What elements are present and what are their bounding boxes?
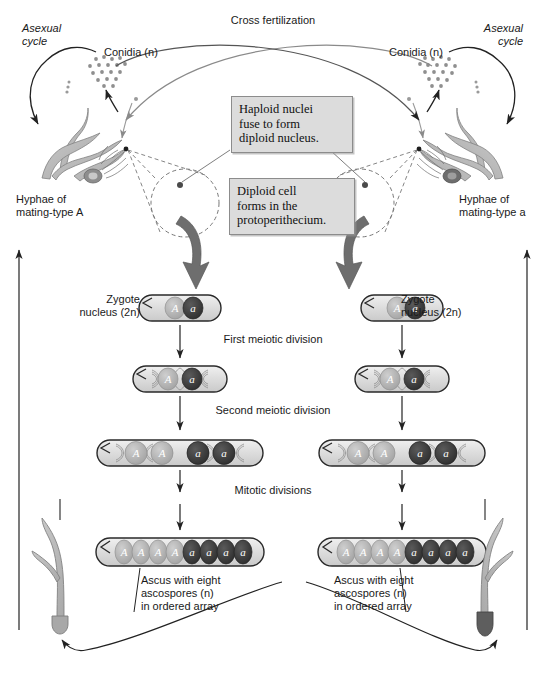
ascus-second-meiotic-right: A A a a <box>319 440 485 466</box>
conidia-label-left: Conidia (n) <box>104 46 158 59</box>
zygote-label-right: Zygote nucleus (2n) <box>401 293 462 319</box>
svg-text:a: a <box>417 447 423 459</box>
germinating-hypha-right <box>477 499 513 636</box>
svg-text:A: A <box>393 546 401 558</box>
hyphae-label-left: Hyphae of mating-type A <box>16 193 83 219</box>
figure-canvas: A a A <box>0 0 545 699</box>
svg-text:a: a <box>445 546 451 558</box>
conidia-cluster-left <box>88 55 127 88</box>
conidia-formation-arrow-right <box>427 90 439 112</box>
svg-text:a: a <box>189 546 195 558</box>
asexual-cycle-label-left: Asexual cycle <box>22 22 61 48</box>
ascus-caption-right: Ascus with eight ascospores (n) in order… <box>334 574 413 613</box>
svg-text:a: a <box>190 302 196 314</box>
magnifier-left <box>128 150 219 289</box>
svg-text:a: a <box>462 546 468 558</box>
caption-leader-left <box>134 568 140 612</box>
svg-text:a: a <box>411 373 417 385</box>
svg-text:A: A <box>158 447 166 459</box>
mycelium-right <box>417 81 503 184</box>
conidium-dot-right <box>407 97 411 101</box>
conidium-dispersal-right <box>413 103 423 138</box>
svg-text:A: A <box>386 373 394 385</box>
conidia-cluster-right <box>418 55 457 88</box>
svg-text:A: A <box>342 546 350 558</box>
ascus-mature-left: AA AA aa aa <box>96 538 264 566</box>
svg-text:a: a <box>428 546 434 558</box>
svg-text:A: A <box>354 447 362 459</box>
svg-text:a: a <box>223 546 229 558</box>
conidium-dispersal-left <box>122 103 132 138</box>
svg-text:A: A <box>376 546 384 558</box>
svg-text:A: A <box>132 447 140 459</box>
svg-text:a: a <box>206 546 212 558</box>
asexual-cycle-arrow-left <box>30 60 47 124</box>
magnifier-arrow-left <box>176 216 209 289</box>
ascus-second-meiotic-left: A A a a <box>97 440 263 466</box>
mycelium-left <box>42 81 128 184</box>
svg-text:a: a <box>221 447 227 459</box>
conidia-formation-arrow-left <box>106 90 118 112</box>
ascus-zygote-left: A a <box>139 295 221 321</box>
svg-text:A: A <box>137 546 145 558</box>
conidium-dot-left <box>134 97 138 101</box>
first-meiotic-division-label: First meiotic division <box>213 333 333 346</box>
callout-diploid-cell: Diploid cell forms in the protoperitheci… <box>229 178 355 235</box>
ascus-mature-right: AA AA aa aa <box>318 538 486 566</box>
ascus-first-meiotic-right: A a <box>355 366 449 392</box>
svg-text:A: A <box>171 302 179 314</box>
mitotic-divisions-label: Mitotic divisions <box>224 484 322 497</box>
svg-text:A: A <box>154 546 162 558</box>
svg-text:A: A <box>164 373 172 385</box>
svg-text:A: A <box>171 546 179 558</box>
asexual-cycle-arrow-right <box>498 60 515 124</box>
conidia-label-right: Conidia (n) <box>389 46 443 59</box>
svg-text:a: a <box>411 546 417 558</box>
svg-text:a: a <box>195 447 201 459</box>
asexual-cycle-label-right: Asexual cycle <box>437 22 523 48</box>
ascus-column-right: A a A a <box>318 295 486 566</box>
svg-text:a: a <box>443 447 449 459</box>
ascus-first-meiotic-left: A a <box>133 366 227 392</box>
ascus-caption-left: Ascus with eight ascospores (n) in order… <box>141 574 220 613</box>
figure-title: Cross fertilization <box>214 14 332 27</box>
zygote-label-left: Zygote nucleus (2n) <box>66 293 140 319</box>
svg-text:a: a <box>240 546 246 558</box>
second-meiotic-division-label: Second meiotic division <box>206 404 340 417</box>
svg-text:A: A <box>380 447 388 459</box>
germinating-hypha-left <box>32 499 68 634</box>
svg-text:A: A <box>120 546 128 558</box>
svg-text:a: a <box>189 373 195 385</box>
hyphae-label-right: Hyphae of mating-type a <box>459 193 526 219</box>
svg-text:A: A <box>393 302 401 314</box>
callout-haploid-fusion: Haploid nuclei fuse to form diploid nucl… <box>231 96 353 153</box>
svg-text:A: A <box>359 546 367 558</box>
